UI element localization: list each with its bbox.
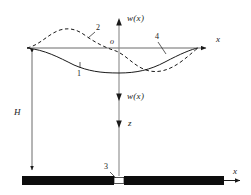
curve-label-1: 1 [77, 70, 81, 78]
leader-line-2 [88, 32, 95, 38]
deflection-diagram: w(x) w(x) z o x x H 1 2 3 4 [0, 0, 251, 195]
z-axis-label: z [128, 119, 132, 128]
dashed-deflection-curve [27, 29, 198, 72]
solid-deflection-curve [27, 48, 198, 73]
depth-label-H: H [14, 108, 21, 117]
x-axis-label-top: x [216, 35, 220, 44]
base-bar-left [22, 176, 114, 185]
x-axis-label-base: x [233, 167, 237, 176]
curve-label-2: 2 [96, 24, 100, 32]
w-function-label-mid: w(x) [127, 92, 144, 101]
w-up-arrow-icon [116, 18, 122, 26]
curve-label-4: 4 [155, 33, 159, 41]
z-down-arrow-icon [116, 121, 122, 129]
base-bar-notch [114, 178, 124, 184]
diagram-canvas [0, 0, 251, 195]
curve-label-3: 3 [104, 163, 108, 171]
w-function-label-top: w(x) [127, 14, 144, 23]
base-bar-right [124, 176, 224, 185]
origin-label: o [110, 38, 114, 46]
w-down-arrow-icon [116, 94, 122, 102]
